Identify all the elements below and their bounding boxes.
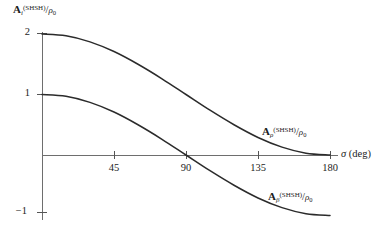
- curve-label-a-rho: Aρ(SHSH)/ρ0: [262, 126, 306, 139]
- x-axis-title: σ (deg): [341, 149, 371, 160]
- x-axis-title-unit: (deg): [349, 148, 371, 159]
- x-axis-title-symbol: σ: [341, 148, 346, 159]
- y-axis-label: Ai(SHSH)/ρ0: [13, 4, 56, 17]
- x-tick-label-45: 45: [99, 163, 129, 174]
- x-tick-label-135: 135: [243, 163, 273, 174]
- curve-label-rho-denominator-sub: 0: [303, 131, 306, 138]
- y-tick-label-2: 2: [8, 27, 30, 38]
- curve-label-beta-symbol: A: [268, 190, 276, 202]
- y-axis-label-denominator-sub: 0: [53, 9, 56, 16]
- y-axis-label-superscript: (SHSH): [23, 4, 46, 12]
- x-tick-label-180: 180: [315, 163, 345, 174]
- curve-label-a-beta: Aβ(SHSH)/ρ0: [268, 191, 313, 204]
- curve-label-beta-denominator-sub: 0: [309, 196, 312, 203]
- chart-canvas: [0, 0, 386, 235]
- curve-label-rho-symbol: A: [262, 125, 270, 137]
- y-tick-label-minus-1: −1: [5, 206, 27, 217]
- y-axis-label-symbol: A: [13, 3, 21, 15]
- y-tick-label-1: 1: [8, 88, 30, 99]
- curve-label-beta-superscript: (SHSH): [279, 191, 302, 199]
- x-tick-label-90: 90: [171, 163, 201, 174]
- curve-label-rho-superscript: (SHSH): [273, 126, 296, 134]
- chart-figure: Ai(SHSH)/ρ0 2 1 −1 45 90 135 180 σ (deg)…: [0, 0, 386, 235]
